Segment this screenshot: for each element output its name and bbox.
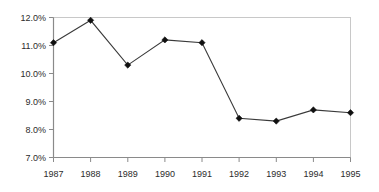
x-tick-label-1990: 1990: [155, 169, 175, 179]
x-tick-label-1988: 1988: [81, 169, 101, 179]
y-tick-label-8: 8.0%: [25, 125, 46, 135]
x-tick-label-1994: 1994: [303, 169, 323, 179]
y-tick-label-11: 11.0%: [21, 41, 46, 51]
line-chart: 12.0% 11.0% 10.0% 9.0% 8.0% 7.0% 1987 19…: [0, 0, 379, 192]
chart-container: 12.0% 11.0% 10.0% 9.0% 8.0% 7.0% 1987 19…: [0, 0, 379, 192]
y-tick-label-7: 7.0%: [25, 153, 46, 163]
x-tick-label-1989: 1989: [118, 169, 138, 179]
x-tick-label-1991: 1991: [192, 169, 212, 179]
chart-background: [0, 0, 379, 192]
y-tick-label-12: 12.0%: [20, 13, 46, 23]
x-tick-label-1993: 1993: [266, 169, 286, 179]
y-tick-label-9: 9.0%: [25, 97, 46, 107]
y-tick-label-10: 10.0%: [20, 69, 46, 79]
x-tick-label-1992: 1992: [229, 169, 249, 179]
x-tick-label-1995: 1995: [340, 169, 360, 179]
x-tick-label-1987: 1987: [43, 169, 63, 179]
